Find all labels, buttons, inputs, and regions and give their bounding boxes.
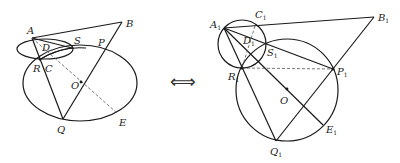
label-P1: P1 <box>336 66 348 78</box>
line-A1B1 <box>224 17 374 28</box>
label-R1: R1 <box>227 71 239 83</box>
point-R1 <box>240 66 243 69</box>
line-B1Q1 <box>276 17 374 141</box>
point-P1 <box>331 67 334 70</box>
right-figure: A1 B1 C1 D1 S1 P1 R1 O Q1 E1 <box>209 9 389 158</box>
label-B1: B1 <box>377 12 389 24</box>
label-A: A <box>26 25 34 36</box>
label-Q1: Q1 <box>270 146 282 158</box>
label-E1: E1 <box>325 124 337 136</box>
label-C: C <box>45 63 53 74</box>
label-R: R <box>32 63 41 74</box>
double-arrow-icon: ⟺ <box>170 71 196 92</box>
label-D1: D1 <box>242 35 255 47</box>
center-point-O <box>286 88 289 91</box>
large-ellipse <box>23 45 137 121</box>
label-D: D <box>41 42 50 53</box>
label-O-right: O <box>280 95 288 106</box>
label-Q: Q <box>57 124 65 135</box>
label-E: E <box>118 117 127 128</box>
label-A1: A1 <box>209 19 221 31</box>
left-figure: A B S P D R C O Q E <box>17 18 137 135</box>
label-P: P <box>97 37 105 48</box>
dashed-line-R1P1 <box>242 68 333 69</box>
label-O: O <box>71 80 79 91</box>
label-S: S <box>74 35 81 46</box>
label-S1: S1 <box>267 47 278 59</box>
label-B: B <box>125 18 133 29</box>
label-C1: C1 <box>255 9 266 21</box>
center-point-O <box>80 81 83 84</box>
diagram-canvas: A B S P D R C O Q E ⟺ A1 B1 C1 D1 S1 P1 … <box>0 0 400 163</box>
line-BQ <box>63 22 122 119</box>
